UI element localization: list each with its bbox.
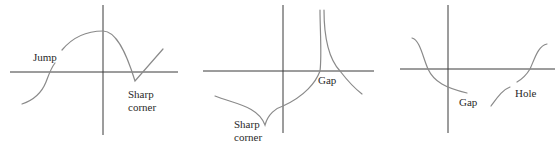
panel-2-sharp-corner-label-line2: corner bbox=[234, 131, 262, 143]
panel-3-curve-middle-segment bbox=[491, 87, 510, 106]
panel-1-jump-label: Jump bbox=[33, 51, 57, 63]
panel-1-sharp-corner-label-line2: corner bbox=[128, 101, 156, 113]
panel-1-sharp-corner-label-line1: Sharp bbox=[128, 88, 154, 100]
panel-1-curve-left-segment bbox=[22, 63, 55, 104]
nondifferentiable-functions-figure: Jump Sharp corner Gap Sharp corner Gap H… bbox=[0, 0, 559, 148]
panel-2-sharp-corner-label-line1: Sharp bbox=[234, 118, 260, 130]
panel-2-curve-left-branch bbox=[215, 10, 321, 125]
panel-2-gap-label: Gap bbox=[318, 74, 337, 86]
figure-canvas: Jump Sharp corner Gap Sharp corner Gap H… bbox=[0, 0, 559, 148]
panel-2-cusp-and-asymptote: Gap Sharp corner bbox=[203, 5, 374, 143]
panel-3-hole-label: Hole bbox=[515, 87, 537, 99]
panel-1-curve-right-segment bbox=[62, 31, 163, 81]
panel-3-gap-and-hole: Gap Hole bbox=[400, 5, 555, 133]
panel-1-jump-and-corner: Jump Sharp corner bbox=[10, 5, 178, 135]
panel-3-curve-right-segment bbox=[517, 44, 547, 82]
panel-3-gap-label: Gap bbox=[459, 96, 478, 108]
panel-3-curve-left-segment bbox=[412, 38, 467, 93]
